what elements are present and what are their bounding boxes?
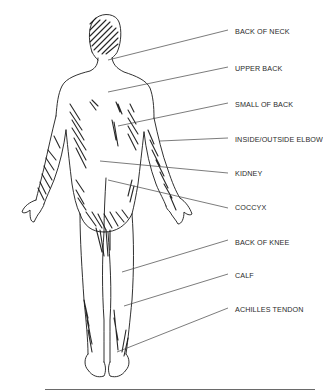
label-small-of-back: SMALL OF BACK: [235, 100, 293, 109]
leader-back-of-knee: [122, 240, 228, 272]
bottom-rule: [45, 389, 315, 390]
label-achilles-tendon: ACHILLES TENDON: [235, 305, 303, 314]
leader-lines: [100, 30, 228, 352]
leader-inside-outside-elbow: [160, 138, 228, 141]
label-inside-outside-elbow: INSIDE/OUTSIDE ELBOW: [235, 135, 323, 144]
label-upper-back: UPPER BACK: [235, 64, 282, 73]
leader-back-of-neck: [108, 30, 228, 60]
label-back-of-knee: BACK OF KNEE: [235, 238, 289, 247]
label-coccyx: COCCYX: [235, 203, 266, 212]
label-back-of-neck: BACK OF NECK: [235, 27, 290, 36]
body-outline: [22, 15, 192, 377]
leader-calf: [124, 274, 228, 306]
leader-upper-back: [108, 67, 228, 92]
leader-small-of-back: [118, 103, 228, 126]
leader-kidney: [100, 161, 228, 173]
label-calf: CALF: [235, 271, 254, 280]
leader-coccyx: [108, 180, 228, 208]
body-shading: [38, 18, 176, 356]
label-kidney: KIDNEY: [235, 169, 262, 178]
leader-achilles-tendon: [117, 308, 228, 352]
